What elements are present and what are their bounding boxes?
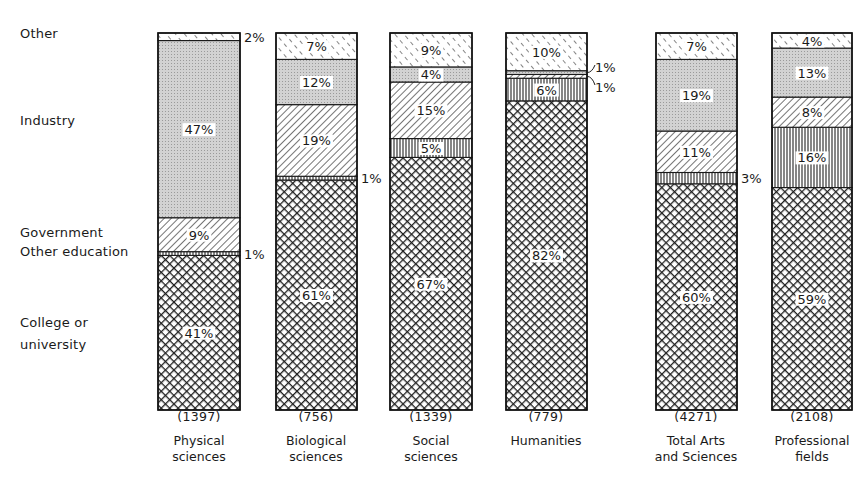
segment-value-label: 1%	[595, 60, 616, 75]
segment-value-label: 4%	[421, 67, 442, 82]
bar-social-sciences	[390, 33, 472, 410]
segment-value-label: 5%	[421, 141, 442, 156]
sample-size: (1339)	[371, 409, 491, 425]
segment-value-label: 7%	[686, 39, 707, 54]
segment-value-label: 1%	[244, 247, 265, 262]
segment-other	[158, 33, 240, 41]
legend-college-line1: College or	[20, 315, 88, 331]
sample-size: (4271)	[636, 409, 756, 425]
legend-other: Other	[20, 26, 58, 42]
category-label-line1: Biological	[256, 433, 376, 449]
segment-value-label: 16%	[798, 150, 827, 165]
category-humanities: (779) Humanities	[486, 409, 606, 449]
bar-physical-sciences	[158, 33, 240, 410]
segment-value-label: 6%	[536, 83, 557, 98]
sample-size: (756)	[256, 409, 376, 425]
category-label-line1: Physical	[139, 433, 259, 449]
bars-layer	[158, 33, 852, 410]
segment-value-label: 59%	[798, 292, 827, 307]
sample-size: (2108)	[752, 409, 868, 425]
segment-value-label: 7%	[306, 39, 327, 54]
legend-government: Government	[20, 225, 103, 241]
category-biological-sciences: (756) Biological sciences	[256, 409, 376, 465]
legend-other-education: Other education	[20, 244, 129, 260]
segment-value-label: 11%	[682, 145, 711, 160]
legend-college-line2: university	[20, 337, 86, 353]
segment-value-label: 41%	[185, 326, 214, 341]
segment-value-label: 60%	[682, 290, 711, 305]
segment-value-label: 3%	[741, 171, 762, 186]
segment-value-label: 1%	[595, 80, 616, 95]
category-label-line1: Total Arts	[636, 433, 756, 449]
category-label-line1: Professional	[752, 433, 868, 449]
segment-value-label: 19%	[302, 133, 331, 148]
segment-value-label: 9%	[189, 228, 210, 243]
category-total-arts-and-sciences: (4271) Total Arts and Sciences	[636, 409, 756, 465]
category-label-line1: Social	[371, 433, 491, 449]
category-professional-fields: (2108) Professional fields	[752, 409, 868, 465]
segment-value-label: 82%	[532, 248, 561, 263]
segment-value-label: 1%	[361, 171, 382, 186]
segment-value-label: 12%	[302, 75, 331, 90]
segment-other-education	[656, 172, 737, 183]
segment-value-label: 19%	[682, 88, 711, 103]
segment-value-label: 2%	[244, 30, 265, 45]
category-label-line2: sciences	[256, 449, 376, 465]
category-label-line1: Humanities	[486, 433, 606, 449]
segment-value-label: 8%	[802, 105, 823, 120]
segment-value-label: 67%	[417, 277, 446, 292]
segment-government	[506, 74, 587, 78]
sample-size: (1397)	[139, 409, 259, 425]
category-physical-sciences: (1397) Physical sciences	[139, 409, 259, 465]
category-label-line2: sciences	[139, 449, 259, 465]
segment-value-label: 4%	[802, 34, 823, 49]
legend-industry: Industry	[20, 113, 75, 129]
segment-value-label: 13%	[798, 66, 827, 81]
category-social-sciences: (1339) Social sciences	[371, 409, 491, 465]
segment-value-label: 47%	[185, 122, 214, 137]
segment-value-label: 61%	[302, 288, 331, 303]
segment-value-label: 9%	[421, 43, 442, 58]
sample-size: (779)	[486, 409, 606, 425]
category-label-line2: and Sciences	[636, 449, 756, 465]
segment-value-label: 10%	[532, 45, 561, 60]
segment-value-label: 15%	[417, 103, 446, 118]
segment-other-education	[276, 176, 357, 180]
bar-professional-fields	[772, 33, 852, 410]
category-label-line2: fields	[752, 449, 868, 465]
category-label-line2: sciences	[371, 449, 491, 465]
segment-industry	[506, 71, 587, 75]
leader-line	[587, 65, 595, 73]
segment-other-education	[158, 252, 240, 256]
leader-line	[587, 76, 595, 85]
